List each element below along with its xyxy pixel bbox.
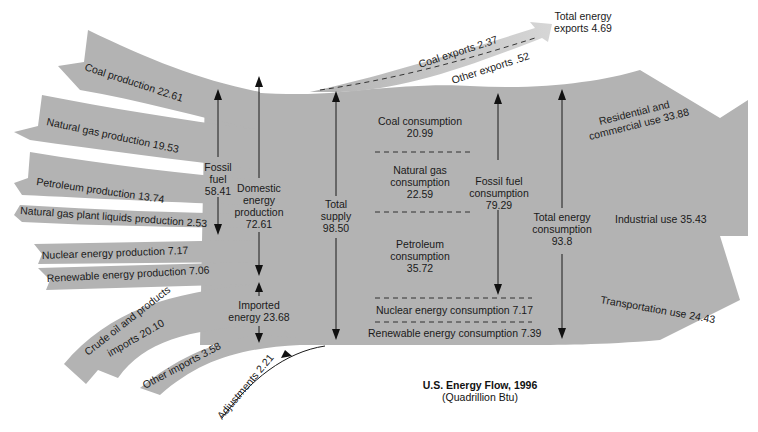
svg-text:58.41: 58.41 xyxy=(205,185,231,197)
svg-text:98.50: 98.50 xyxy=(323,222,349,234)
svg-text:Coal consumption: Coal consumption xyxy=(378,115,462,127)
energy-flow-diagram: Coal production 22.61 Natural gas produc… xyxy=(0,0,758,432)
svg-text:Petroleum: Petroleum xyxy=(396,238,444,250)
svg-text:fuel: fuel xyxy=(210,173,227,185)
svg-text:Imported: Imported xyxy=(238,299,280,311)
svg-text:72.61: 72.61 xyxy=(246,218,272,230)
svg-text:consumption: consumption xyxy=(469,187,529,199)
svg-text:79.29: 79.29 xyxy=(486,199,512,211)
industrial-label: Industrial use 35.43 xyxy=(615,213,707,225)
svg-text:Domestic: Domestic xyxy=(237,182,281,194)
adjustments-label: Adjustments 2.21 xyxy=(214,351,275,421)
svg-text:Fossil: Fossil xyxy=(204,161,231,173)
svg-text:supply: supply xyxy=(321,210,352,222)
svg-text:Total energy: Total energy xyxy=(554,10,612,22)
svg-text:consumption: consumption xyxy=(532,223,592,235)
svg-text:energy: energy xyxy=(243,194,276,206)
svg-text:exports 4.69: exports 4.69 xyxy=(554,22,612,34)
svg-text:Total: Total xyxy=(325,198,347,210)
svg-text:35.72: 35.72 xyxy=(407,262,433,274)
svg-text:22.59: 22.59 xyxy=(407,188,433,200)
nuclear-consumption-label: Nuclear energy consumption 7.17 xyxy=(376,304,533,316)
svg-text:consumption: consumption xyxy=(390,250,450,262)
svg-text:consumption: consumption xyxy=(390,176,450,188)
diagram-subtitle: (Quadrillion Btu) xyxy=(442,391,518,403)
svg-text:Total energy: Total energy xyxy=(533,211,591,223)
diagram-title: U.S. Energy Flow, 1996 xyxy=(423,379,538,391)
svg-text:Fossil fuel: Fossil fuel xyxy=(475,175,522,187)
svg-text:Natural gas: Natural gas xyxy=(393,164,447,176)
renewable-consumption-label: Renewable energy consumption 7.39 xyxy=(368,327,542,339)
total-exports-label: Total energy exports 4.69 xyxy=(554,10,612,34)
svg-text:production: production xyxy=(234,206,283,218)
svg-text:20.99: 20.99 xyxy=(407,127,433,139)
svg-text:energy 23.68: energy 23.68 xyxy=(228,311,289,323)
svg-text:93.8: 93.8 xyxy=(552,235,573,247)
adjustments-arrow xyxy=(222,346,325,418)
